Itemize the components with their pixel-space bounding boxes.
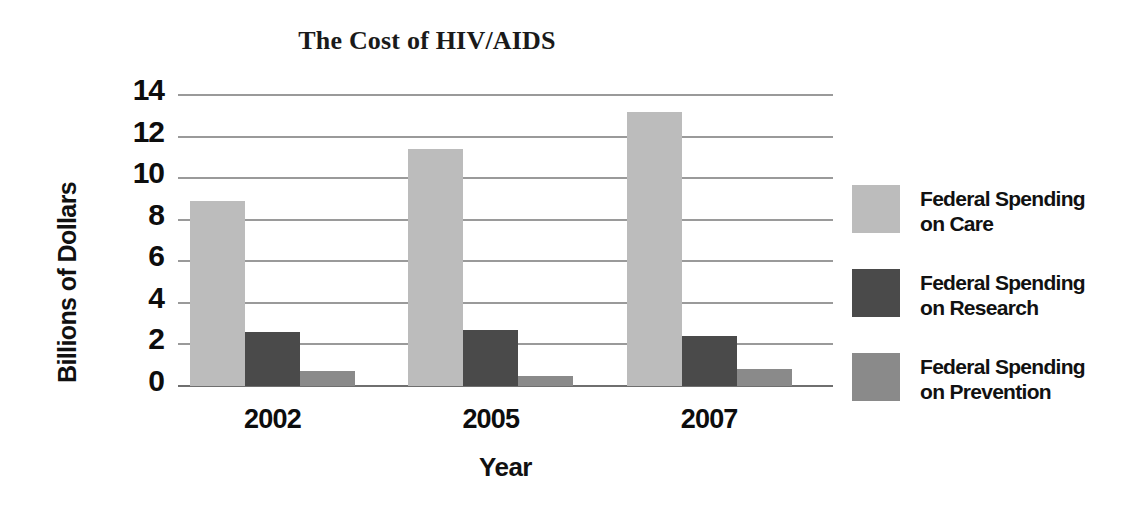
- gridline: [178, 302, 833, 304]
- bar-research-2007: [682, 336, 737, 386]
- x-tick-label-2005: 2005: [421, 404, 561, 435]
- y-tick-label: 4: [104, 281, 164, 315]
- legend-label: Federal Spending on Research: [920, 269, 1085, 320]
- y-tick-label: 2: [104, 322, 164, 356]
- chart-figure: The Cost of HIV/AIDS Billions of Dollars…: [0, 0, 1144, 514]
- bar-care-2005: [408, 149, 463, 386]
- y-tick-label: 0: [104, 364, 164, 398]
- bar-research-2005: [463, 330, 518, 386]
- chart-title: The Cost of HIV/AIDS: [0, 26, 854, 56]
- y-tick-label: 8: [104, 198, 164, 232]
- x-tick-label-2002: 2002: [203, 404, 343, 435]
- legend-label: Federal Spending on Care: [920, 185, 1085, 236]
- bar-care-2007: [627, 112, 682, 386]
- legend-swatch-icon: [852, 353, 900, 401]
- plot-area: [178, 95, 833, 386]
- legend-item[interactable]: Federal Spending on Care: [852, 185, 1085, 236]
- gridline: [178, 177, 833, 179]
- y-tick-label: 12: [104, 115, 164, 149]
- y-axis-title: Billions of Dollars: [53, 163, 82, 403]
- x-axis-title: Year: [178, 452, 833, 483]
- legend-item[interactable]: Federal Spending on Research: [852, 269, 1085, 320]
- y-tick-label: 14: [104, 73, 164, 107]
- bar-prevention-2002: [300, 371, 355, 386]
- gridline: [178, 94, 833, 96]
- legend-swatch-icon: [852, 185, 900, 233]
- bar-care-2002: [190, 201, 245, 386]
- y-tick-label: 10: [104, 156, 164, 190]
- legend-label: Federal Spending on Prevention: [920, 353, 1085, 404]
- legend-swatch-icon: [852, 269, 900, 317]
- bar-prevention-2005: [518, 376, 573, 386]
- gridline: [178, 219, 833, 221]
- gridline: [178, 260, 833, 262]
- y-tick-label: 6: [104, 239, 164, 273]
- bar-research-2002: [245, 332, 300, 386]
- x-tick-label-2007: 2007: [639, 404, 779, 435]
- bar-prevention-2007: [737, 369, 792, 386]
- gridline: [178, 136, 833, 138]
- legend-item[interactable]: Federal Spending on Prevention: [852, 353, 1085, 404]
